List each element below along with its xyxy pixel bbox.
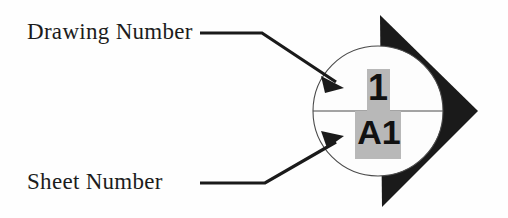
drawing-number-value: 1 <box>366 70 390 106</box>
figure-canvas: Drawing Number Sheet Number 1 A1 <box>0 0 508 218</box>
sheet-number-value: A1 <box>356 115 402 149</box>
sheet-number-callout-label: Sheet Number <box>27 170 163 193</box>
drawing-number-callout-label: Drawing Number <box>27 20 193 43</box>
